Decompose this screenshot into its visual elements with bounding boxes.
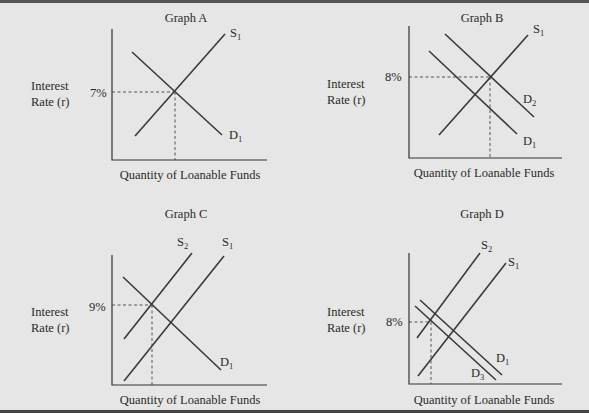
graph-b-axes (409, 26, 562, 158)
graph-b-demand-d2 (445, 34, 534, 117)
graph-c-s2-label: S2 (177, 235, 188, 251)
graph-c-supply-s2 (124, 253, 192, 339)
graph-d-d1-label: D1 (496, 351, 509, 367)
graph-a-ylabel-line2: Rate (r) (31, 95, 70, 109)
graph-b-demand-d1 (429, 51, 517, 134)
graph-c-axes (112, 255, 267, 385)
graph-b-xlabel: Quantity of Loanable Funds (414, 166, 555, 180)
graph-d: Graph D Interest Rate (r) 8% S2 S1 D1 D3… (327, 207, 562, 407)
graph-d-s1-label: S1 (508, 255, 519, 271)
graph-b-ylabel-line1: Interest (327, 77, 365, 91)
graph-a: Graph A Interest Rate (r) 7% S1 D1 Quant… (31, 11, 267, 182)
graph-c-ylabel-line1: Interest (31, 305, 69, 319)
graph-c: Graph C Interest Rate (r) 9% S2 S1 D1 Qu… (31, 207, 267, 407)
graph-d-demand-d1 (420, 300, 502, 375)
graph-a-ylabel-line1: Interest (31, 79, 69, 93)
graph-b-d2-label: D2 (523, 92, 536, 108)
graph-b-ylabel-line2: Rate (r) (327, 93, 366, 107)
graph-d-xlabel: Quantity of Loanable Funds (414, 393, 555, 407)
graph-d-rate-label: 8% (386, 315, 403, 329)
graph-d-ylabel-line2: Rate (r) (327, 321, 366, 335)
graph-c-d1-label: D1 (220, 355, 233, 371)
graph-a-rate-label: 7% (90, 86, 107, 100)
graph-b-supply-s1 (439, 35, 528, 135)
graph-b-d1-label: D1 (523, 134, 536, 150)
graph-c-demand-d1 (123, 277, 221, 370)
graph-c-s1-label: S1 (222, 235, 233, 251)
graph-a-demand-d1 (132, 52, 222, 135)
graph-c-xlabel: Quantity of Loanable Funds (120, 393, 261, 407)
loanable-funds-figure: Graph A Interest Rate (r) 7% S1 D1 Quant… (0, 0, 589, 413)
graph-b-rate-label: 8% (385, 70, 402, 84)
graph-a-title: Graph A (165, 11, 208, 25)
graph-a-d1-label: D1 (229, 128, 242, 144)
graph-a-supply-s1 (135, 34, 225, 136)
graph-b-title: Graph B (461, 11, 504, 25)
graph-a-xlabel: Quantity of Loanable Funds (120, 168, 261, 182)
graph-a-s1-label: S1 (230, 26, 241, 42)
graph-c-ylabel-line2: Rate (r) (31, 321, 70, 335)
graph-d-title: Graph D (460, 207, 503, 221)
graph-d-s2-label: S2 (481, 238, 492, 254)
graph-a-axes (112, 29, 267, 160)
graph-b-s1-label: S1 (533, 22, 544, 38)
graph-d-demand-d3 (415, 306, 496, 380)
graph-b: Graph B Interest Rate (r) 8% S1 D2 D1 Qu… (327, 11, 562, 180)
graph-d-ylabel-line1: Interest (327, 305, 365, 319)
graph-c-rate-label: 9% (89, 300, 106, 314)
graph-c-title: Graph C (165, 207, 208, 221)
